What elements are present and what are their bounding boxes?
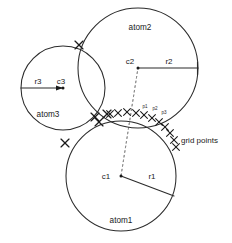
intersection-mark-atom1-atom3-lower — [61, 139, 69, 147]
atom2-center-dot — [137, 67, 140, 70]
grid-point-id-label: p3 — [161, 110, 167, 115]
atom3-center-dot — [62, 87, 65, 90]
grid-point-mark — [173, 144, 180, 151]
grid-points-label: grid points — [181, 136, 218, 145]
intersection-mark-triple-mid — [95, 118, 103, 126]
grid-point-mark — [162, 124, 169, 131]
grid-point-id-label: p2 — [152, 106, 158, 111]
grid-point-marks — [107, 109, 180, 151]
intersection-x-marks — [61, 41, 111, 147]
grid-point-mark — [149, 115, 156, 122]
atom1-radius-label: r1 — [148, 172, 156, 181]
atom3-name-label: atom3 — [37, 110, 60, 119]
grid-point-mark — [171, 137, 178, 144]
atom1-center-dot — [120, 175, 123, 178]
atom1-name-label: atom1 — [110, 216, 133, 225]
atom1-center-label: c1 — [102, 172, 111, 181]
atom2-center-label: c2 — [126, 57, 135, 66]
atom3-center-label: c3 — [57, 77, 66, 86]
grid-point-mark — [124, 109, 131, 116]
grid-point-mark — [167, 130, 174, 137]
atom2-radius-label: r2 — [165, 57, 173, 66]
atoms-grid-diagram: p1p2p3 atom1 c1 r1 atom2 c2 r2 atom3 c3 … — [0, 0, 232, 243]
grid-point-mark — [133, 110, 140, 117]
intersection-mark-triple-left — [91, 113, 99, 121]
grid-point-id-label: p1 — [142, 104, 148, 109]
intersection-mark-atom2-atom3-upper — [75, 41, 83, 49]
grid-point-mark — [115, 110, 122, 117]
diagram-canvas: p1p2p3 atom1 c1 r1 atom2 c2 r2 atom3 c3 … — [0, 0, 232, 243]
grid-point-mark — [141, 112, 148, 119]
atom3-radius-label: r3 — [34, 77, 42, 86]
atom2-name-label: atom2 — [129, 23, 152, 32]
